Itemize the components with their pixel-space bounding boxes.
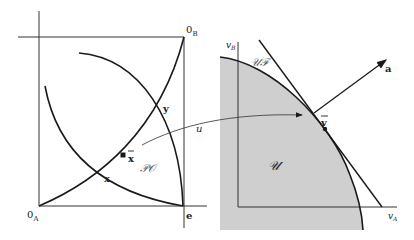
point-x-label: x — [104, 173, 111, 184]
mapping-u-label: u — [196, 123, 202, 134]
vB-axis-label: vB — [226, 40, 236, 51]
xbar-point-marker — [121, 153, 126, 158]
edgeworth-box: 0A 0B e x y x 𝒫𝒪 — [18, 11, 207, 228]
vA-axis-label: vA — [388, 211, 398, 222]
pareto-set-label: 𝒫𝒪 — [140, 162, 158, 175]
edgeworth-box-utility-possibility-diagram: 0A 0B e x y x 𝒫𝒪 vB vA 𝒰ℱ 𝒰 — [0, 0, 414, 240]
point-xbar-label: x — [128, 153, 135, 164]
utility-frontier-label: 𝒰ℱ — [250, 56, 272, 69]
point-vbar-label: v — [320, 117, 328, 128]
indifference-curve-B — [79, 53, 183, 206]
origin-B-label: 0B — [186, 24, 198, 38]
utility-possibility-panel: vB vA 𝒰ℱ 𝒰 v a — [220, 40, 398, 230]
origin-A-label: 0A — [27, 209, 39, 223]
point-y-label: y — [162, 103, 170, 114]
vector-a-arrow[interactable] — [314, 60, 386, 113]
endowment-label: e — [186, 210, 192, 221]
vector-a-label: a — [385, 63, 392, 74]
